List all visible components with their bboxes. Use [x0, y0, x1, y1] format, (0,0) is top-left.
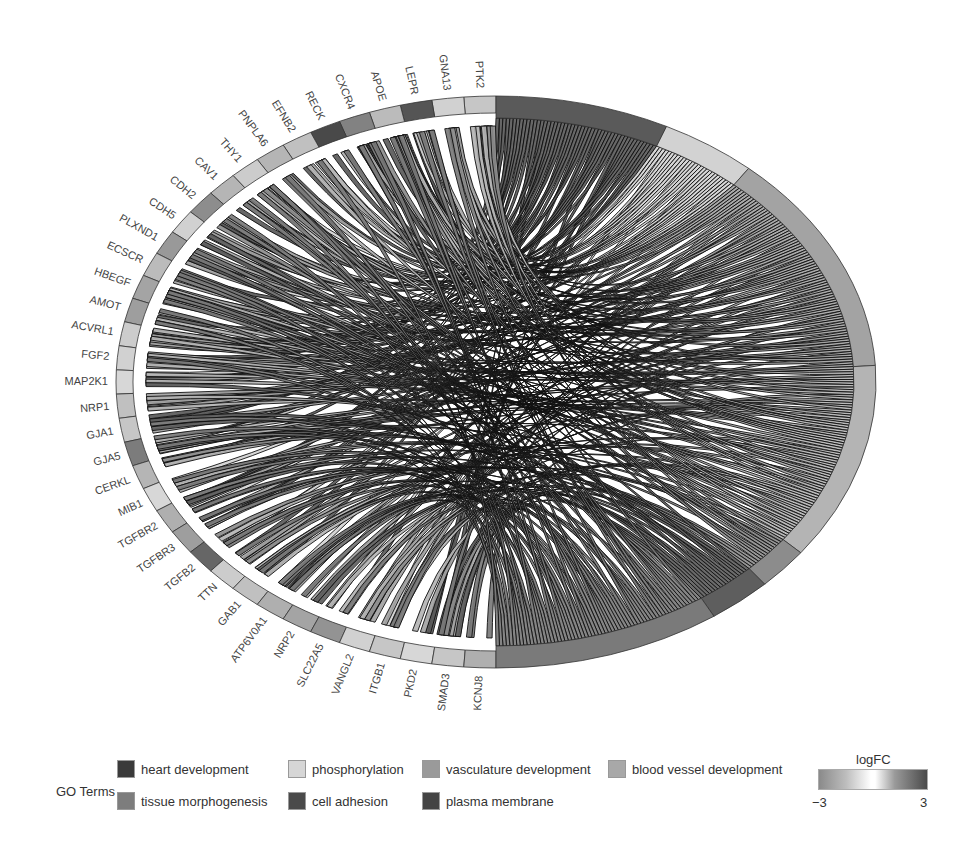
gene-segment-itgb1: [369, 636, 404, 659]
legend-label: vasculature development: [446, 762, 591, 777]
gene-segment-vangl2: [339, 627, 375, 652]
gene-label: APOE: [369, 70, 389, 103]
gene-label: SLC22A5: [294, 641, 326, 688]
gene-label: ATP6V0A1: [228, 614, 270, 664]
gene-segment-fgf2: [116, 346, 136, 371]
legend-item-tissue-morphogenesis: tissue morphogenesis: [117, 792, 267, 810]
gene-label: CERKL: [93, 473, 132, 497]
legend-swatch: [288, 760, 306, 778]
gene-label: PLXND1: [118, 212, 161, 243]
gene-segment-gna13: [432, 97, 465, 117]
legend-item-phosphorylation: phosphorylation: [288, 760, 404, 778]
legend-swatch: [288, 792, 306, 810]
gene-segment-gja1: [119, 416, 141, 442]
legend-swatch: [422, 792, 440, 810]
gene-label: TGFBR3: [135, 541, 178, 575]
legend-label: blood vessel development: [632, 762, 782, 777]
gene-label: TGFB2: [162, 561, 197, 593]
gene-segment-amot: [125, 298, 149, 325]
gene-label: GAB1: [215, 598, 243, 628]
gene-label: CXCR4: [333, 72, 358, 111]
gene-label: RECK: [303, 89, 328, 122]
gene-label: NRP1: [80, 400, 110, 414]
legend-label: plasma membrane: [446, 794, 554, 809]
gene-label: THY1: [217, 136, 245, 165]
legend-swatch: [117, 760, 135, 778]
legend-swatch: [422, 760, 440, 778]
gene-label: LEPR: [403, 65, 421, 96]
gene-label: ACVRL1: [71, 318, 115, 337]
gene-label: ECSCR: [105, 239, 145, 266]
gene-segment-acvrl1: [119, 322, 141, 348]
gene-label: GNA13: [437, 54, 453, 91]
gene-label: GJA1: [85, 425, 114, 441]
gene-label: CAV1: [192, 154, 220, 182]
gene-label: SMAD3: [435, 673, 452, 712]
gene-label: PNPLA6: [236, 107, 271, 148]
gene-label: TGFBR2: [116, 519, 160, 551]
legend-swatch: [117, 792, 135, 810]
chord-links: [146, 118, 854, 646]
gene-segment-map2k1: [116, 370, 133, 394]
legend-item-blood-vessel-development: blood vessel development: [608, 760, 782, 778]
legend-item-vasculature-development: vasculature development: [422, 760, 591, 778]
legend-label: heart development: [141, 762, 249, 777]
gene-segment-lepr: [400, 100, 434, 122]
gene-label: HBEGF: [93, 265, 133, 289]
gene-label: GJA5: [92, 449, 122, 468]
gene-segment-smad3: [432, 647, 465, 667]
gene-label: ITGB1: [366, 661, 387, 695]
gene-segment-kcnj8: [464, 650, 496, 668]
gene-label: EFNB2: [270, 98, 299, 134]
legend-label: phosphorylation: [312, 762, 404, 777]
legend-label: cell adhesion: [312, 794, 388, 809]
gene-label: TTN: [196, 580, 220, 603]
legend-item-heart-development: heart development: [117, 760, 249, 778]
gene-label: VANGL2: [329, 652, 356, 696]
gene-label: CDH5: [147, 195, 179, 222]
legend-item-plasma-membrane: plasma membrane: [422, 792, 554, 810]
gene-label: FGF2: [81, 348, 110, 362]
go-chord-plot: PTK2GNA13LEPRAPOECXCR4RECKEFNB2PNPLA6THY…: [0, 0, 974, 864]
gene-label: KCNJ8: [471, 675, 484, 710]
gene-label: PKD2: [401, 668, 419, 699]
gene-label: MAP2K1: [65, 375, 108, 387]
legend-swatch: [608, 760, 626, 778]
legend-item-cell-adhesion: cell adhesion: [288, 792, 388, 810]
gene-label: NRP2: [271, 629, 297, 660]
gene-segment-ptk2: [464, 96, 496, 114]
gene-label: MIB1: [116, 497, 144, 519]
gene-label: PTK2: [473, 60, 486, 88]
legend-label: tissue morphogenesis: [141, 794, 267, 809]
gene-segment-pkd2: [400, 642, 434, 664]
gene-segment-nrp1: [116, 393, 136, 418]
gene-label: AMOT: [89, 293, 123, 313]
gene-segment-apoe: [369, 105, 404, 128]
gene-label: CDH2: [168, 173, 199, 201]
